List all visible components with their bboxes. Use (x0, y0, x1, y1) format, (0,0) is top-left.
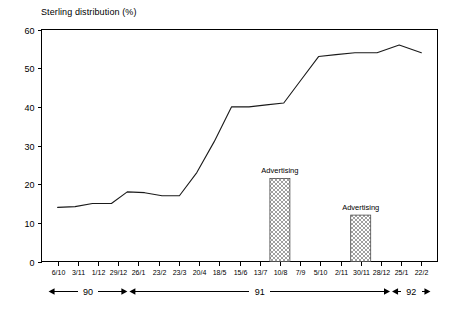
x-tick-label: 18/5 (213, 269, 227, 276)
y-tick-label: 60 (24, 26, 34, 36)
x-axis-ticks (59, 262, 422, 266)
year-span: 91 (129, 287, 390, 297)
x-tick-label: 25/1 (395, 269, 409, 276)
plot-frame (42, 30, 438, 262)
y-tick-label: 10 (24, 219, 34, 229)
x-tick-label: 23/3 (173, 269, 187, 276)
x-tick-label: 23/2 (153, 269, 167, 276)
y-tick-label: 30 (24, 142, 34, 152)
chart-figure: Sterling distribution (%) 0102030405060 … (0, 0, 453, 311)
x-tick-label: 10/8 (274, 269, 288, 276)
year-span: 90 (49, 287, 128, 297)
x-tick-label: 28/12 (373, 269, 391, 276)
x-tick-label: 22/2 (415, 269, 429, 276)
x-tick-label: 5/10 (314, 269, 328, 276)
advertising-bars (270, 178, 371, 261)
year-span: 92 (392, 287, 430, 297)
x-tick-label: 2/11 (335, 269, 348, 276)
advertising-bar-label: Advertising (342, 203, 379, 212)
year-span-axis: 909192 (49, 287, 431, 297)
year-span-label: 90 (83, 287, 93, 297)
x-tick-label: 15/6 (234, 269, 248, 276)
year-span-label: 91 (255, 287, 265, 297)
x-tick-label: 30/11 (353, 269, 370, 276)
x-tick-label: 29/12 (110, 269, 128, 276)
x-tick-label: 6/10 (52, 269, 66, 276)
y-axis-labels: 0102030405060 (24, 26, 34, 268)
year-span-label: 92 (406, 287, 416, 297)
x-tick-label: 7/9 (296, 269, 306, 276)
sterling-distribution-line (58, 45, 422, 207)
advertising-bar (351, 215, 371, 261)
y-tick-label: 40 (24, 103, 34, 113)
x-tick-label: 26/1 (132, 269, 146, 276)
x-tick-label: 3/11 (72, 269, 85, 276)
y-tick-label: 20 (24, 180, 34, 190)
y-tick-label: 0 (29, 258, 34, 268)
advertising-bar-label: Advertising (261, 166, 298, 175)
x-tick-label: 20/4 (193, 269, 207, 276)
advertising-bar (270, 178, 290, 261)
data-series-line (58, 45, 422, 207)
x-tick-label: 1/12 (92, 269, 106, 276)
x-axis-labels: 6/103/111/1229/1226/123/223/320/418/515/… (52, 269, 429, 276)
x-tick-label: 13/7 (254, 269, 268, 276)
y-tick-label: 50 (24, 64, 34, 74)
chart-canvas: 0102030405060 6/103/111/1229/1226/123/22… (0, 0, 453, 311)
y-axis-ticks (38, 31, 42, 263)
